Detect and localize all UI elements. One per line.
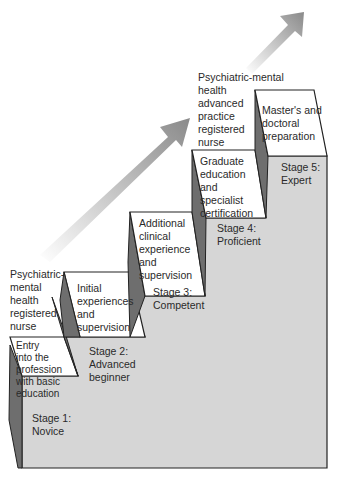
- step-1-description: Entry into the profession with basic edu…: [16, 340, 62, 400]
- stage-4-label: Stage 4: Proficient: [217, 222, 261, 248]
- step-2-description: Initial experiences and supervision: [77, 282, 134, 334]
- step-4-description: Graduate education and specialist certif…: [200, 155, 253, 220]
- stage-3-label: Stage 3: Competent: [153, 286, 204, 312]
- progress-arrow-upper-icon: [246, 12, 304, 74]
- role-label-registered-nurse: Psychiatric- mental health registered nu…: [10, 268, 64, 333]
- stage-5-label: Stage 5: Expert: [281, 161, 320, 187]
- step-3-description: Additional clinical experience and super…: [139, 217, 192, 282]
- step-5-description: Master's and doctoral preparation: [262, 104, 322, 143]
- stage-2-label: Stage 2: Advanced beginner: [89, 345, 136, 384]
- stage-1-label: Stage 1: Novice: [32, 412, 71, 438]
